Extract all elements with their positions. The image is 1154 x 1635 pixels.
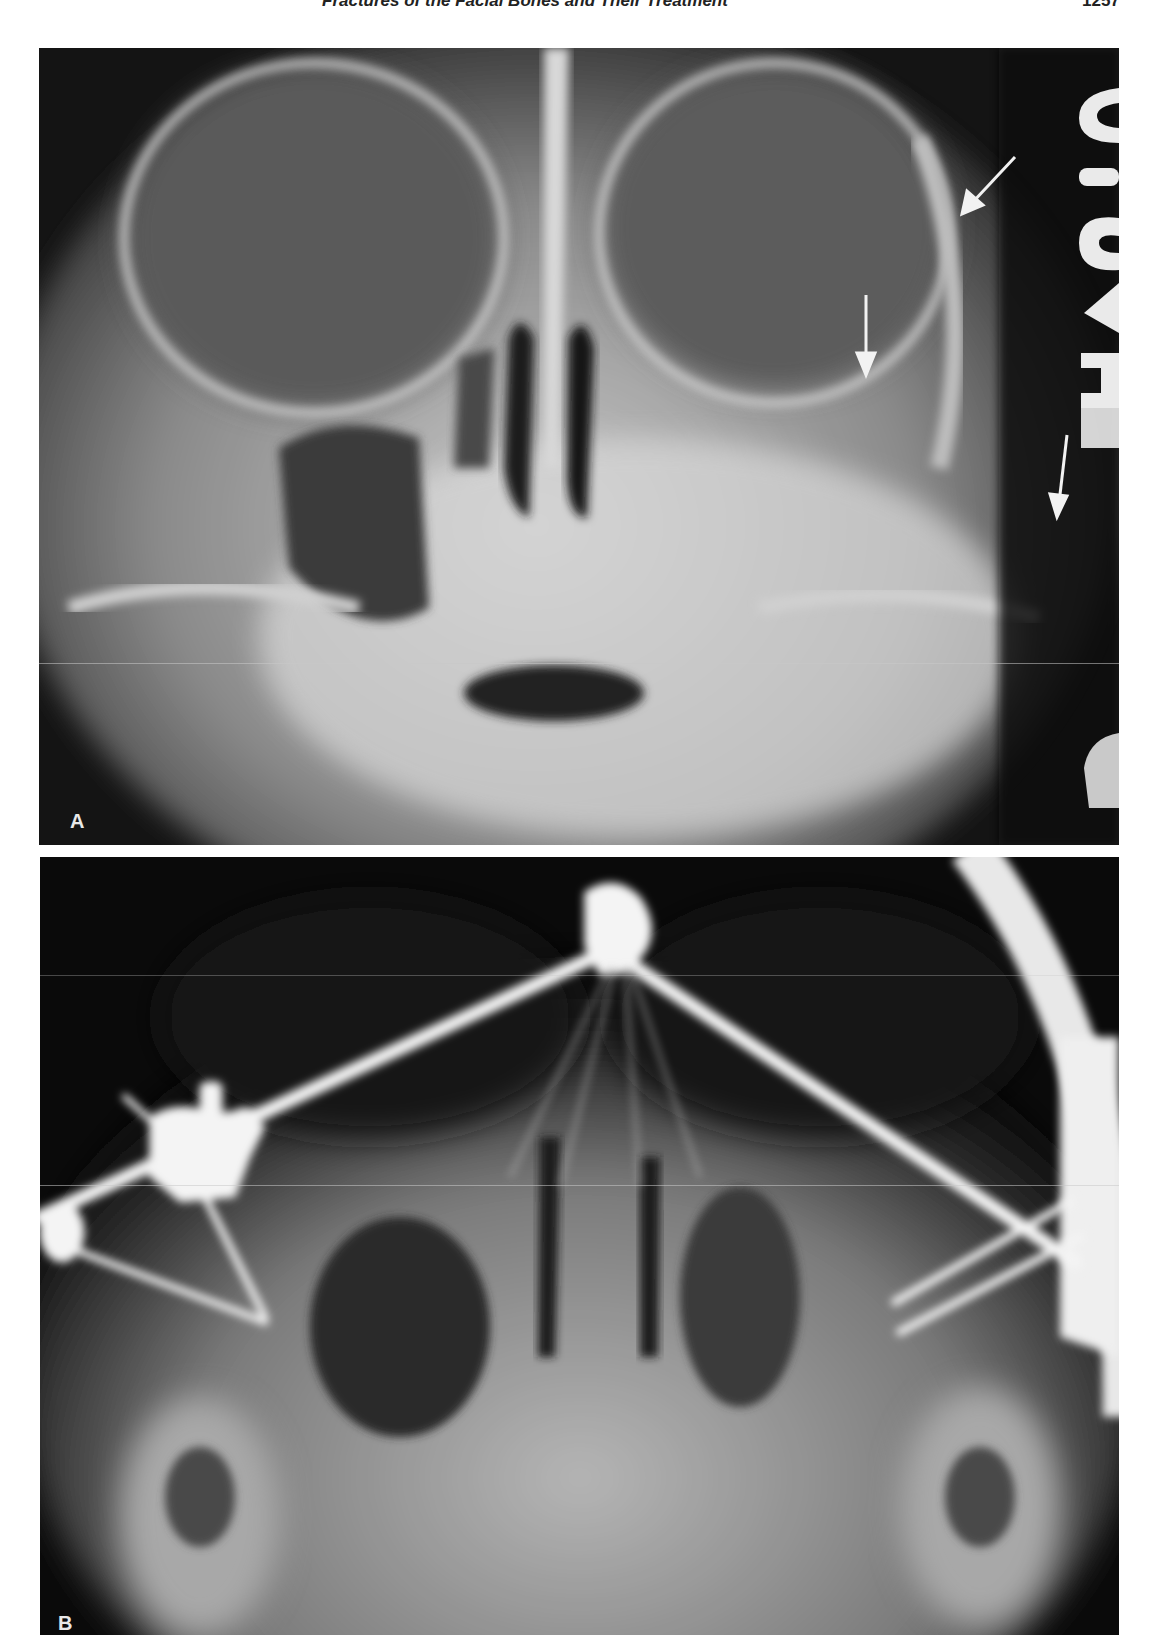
panel-label-b: B — [58, 1612, 72, 1635]
running-head: Fractures of the Facial Bones and Their … — [0, 0, 1154, 9]
scan-artifact-line — [40, 975, 1119, 976]
radiograph-panel-a: A — [39, 48, 1119, 845]
running-head-title: Fractures of the Facial Bones and Their … — [322, 0, 728, 11]
radiograph-a-image — [39, 48, 1119, 845]
scan-artifact-line — [39, 663, 1119, 664]
radiograph-b-image — [40, 857, 1119, 1635]
panel-label-a: A — [70, 810, 84, 833]
radiograph-panel-b: B — [40, 857, 1119, 1635]
page-number: 1257 — [1082, 0, 1120, 11]
scan-artifact-line — [40, 1185, 1119, 1186]
